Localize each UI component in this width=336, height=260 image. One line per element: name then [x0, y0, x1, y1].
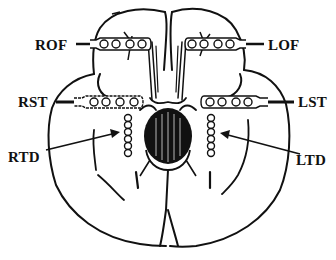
lst-electrode-strip — [201, 96, 294, 108]
rtd-depth-electrode — [125, 115, 132, 157]
interhemispheric-fissure — [160, 170, 168, 246]
ltd-arrow — [220, 130, 300, 154]
rof-label: ROF — [35, 38, 67, 53]
rst-label: RST — [18, 95, 48, 110]
rst-electrode-strip — [56, 96, 143, 108]
rtd-label: RTD — [8, 150, 40, 165]
lst-label: LST — [298, 95, 327, 110]
lof-electrode-strip — [185, 38, 264, 50]
brainstem — [140, 108, 196, 176]
ltd-depth-electrode — [208, 115, 215, 157]
lof-label: LOF — [268, 38, 299, 53]
rof-electrode-strip — [76, 38, 151, 50]
brain-electrode-diagram: ROF LOF RST LST RTD LTD — [0, 0, 336, 260]
rtd-arrow — [46, 129, 120, 150]
ltd-label: LTD — [296, 153, 326, 168]
